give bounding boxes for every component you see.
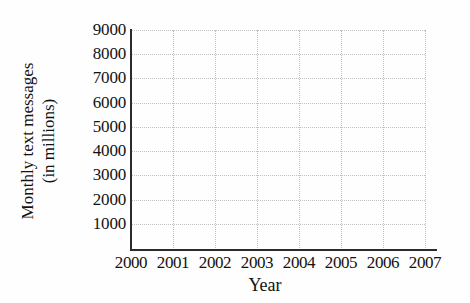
y-axis-tick-label: 5000 [62,118,126,135]
gridline-horizontal [131,54,425,55]
gridline-horizontal [131,175,425,176]
y-axis-tick-label: 7000 [62,69,126,86]
gridline-vertical [341,30,342,248]
x-axis-title: Year [0,274,470,296]
gridline-horizontal [131,103,425,104]
x-axis-tick-label: 2003 [238,253,276,272]
y-axis-tick-label: 9000 [62,21,126,38]
x-axis-tick-label: 2001 [154,253,192,272]
gridline-horizontal [131,127,425,128]
y-axis-tick-label: 3000 [62,166,126,183]
x-axis-tick-label: 2007 [406,253,444,272]
gridline-vertical [215,30,216,248]
y-axis-line [130,29,132,251]
x-axis-tick-label: 2005 [322,253,360,272]
y-axis-tick-label: 1000 [62,215,126,232]
y-axis-tick-label: 4000 [62,142,126,159]
x-axis-tick-labels: 20002001200220032004200520062007 [108,253,448,275]
gridline-vertical [299,30,300,248]
gridline-horizontal [131,30,425,31]
gridline-horizontal [131,200,425,201]
gridline-vertical [383,30,384,248]
gridline-horizontal [131,78,425,79]
gridline-vertical [173,30,174,248]
y-axis-title-line-2: (in millions) [38,46,59,236]
x-axis-title-text: Year [188,275,281,295]
x-axis-tick-label: 2000 [112,253,150,272]
x-axis-tick-label: 2006 [364,253,402,272]
gridline-horizontal [131,224,425,225]
y-axis-tick-label: 2000 [62,191,126,208]
y-axis-tick-label: 8000 [62,45,126,62]
plot-area [131,30,425,248]
y-axis-title: Monthly text messages (in millions) [17,46,59,236]
chart-figure: 100020003000400050006000700080009000 200… [0,0,470,303]
gridline-horizontal [131,151,425,152]
x-axis-line [130,249,437,251]
gridline-vertical [257,30,258,248]
gridline-vertical [425,30,426,248]
y-axis-title-line-1: Monthly text messages [18,63,37,220]
x-axis-tick-label: 2002 [196,253,234,272]
x-axis-tick-label: 2004 [280,253,318,272]
y-axis-tick-label: 6000 [62,94,126,111]
